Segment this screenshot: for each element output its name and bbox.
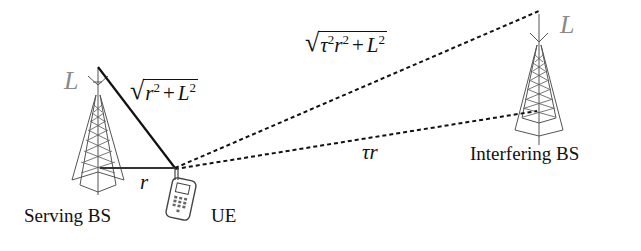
interfering-horizontal-distance-label: τr xyxy=(362,142,378,163)
ue-phone-icon xyxy=(165,168,197,221)
sqrt-sign-icon: √ xyxy=(305,30,319,56)
diagram-canvas: L L √ r2+L2 √ τ2r2+L2 r τr Serving BS UE… xyxy=(0,0,641,251)
serving-distance-label: √ r2+L2 xyxy=(130,78,198,104)
serving-tower-icon xyxy=(72,68,124,195)
interfering-bs-caption: Interfering BS xyxy=(470,144,579,163)
ue-caption: UE xyxy=(211,206,236,225)
interfering-radicand: τ2r2+L2 xyxy=(318,31,387,56)
serving-height-label: L xyxy=(64,68,78,94)
serving-horizontal-distance-label: r xyxy=(140,172,148,193)
serving-radicand: r2+L2 xyxy=(143,79,198,104)
interfering-distance-label: √ τ2r2+L2 xyxy=(305,30,387,56)
interfering-tower-icon xyxy=(515,14,563,145)
interfering-height-label: L xyxy=(560,12,574,38)
sqrt-sign-icon: √ xyxy=(130,78,144,104)
serving-bs-caption: Serving BS xyxy=(24,206,111,225)
